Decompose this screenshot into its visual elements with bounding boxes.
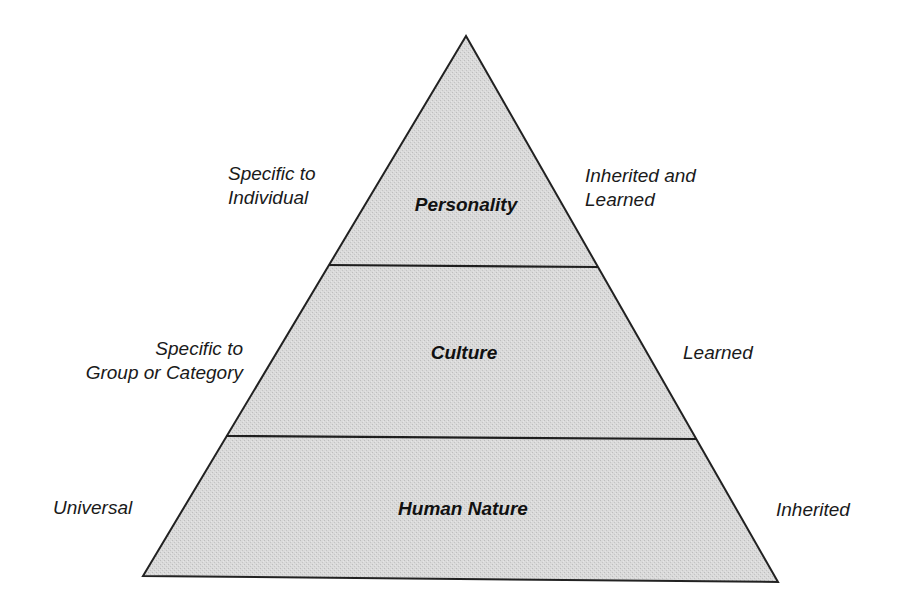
human-nature-right-label: Inherited — [776, 498, 850, 522]
tier-label-culture: Culture — [431, 341, 498, 365]
cropped-glyph-fragment — [50, 608, 74, 614]
tier-label-human-nature: Human Nature — [398, 497, 528, 521]
culture-left-line-2: Group or Category — [30, 361, 243, 385]
tier-label-personality: Personality — [415, 193, 517, 217]
culture-left-label: Specific to Group or Category — [30, 337, 243, 385]
personality-right-line-1: Inherited and — [585, 164, 696, 188]
personality-right-label: Inherited and Learned — [585, 164, 696, 212]
culture-right-label: Learned — [683, 341, 753, 365]
pyramid-diagram: Specific to Individual Personality Inher… — [0, 0, 900, 614]
personality-left-line-2: Individual — [228, 186, 343, 210]
human-nature-right-line-1: Inherited — [776, 498, 850, 522]
culture-left-line-1: Specific to — [30, 337, 243, 361]
personality-left-line-1: Specific to — [228, 162, 343, 186]
pyramid-graphic — [0, 0, 900, 614]
culture-right-line-1: Learned — [683, 341, 753, 365]
personality-right-line-2: Learned — [585, 188, 696, 212]
human-nature-left-label: Universal — [53, 496, 132, 520]
personality-left-label: Specific to Individual — [228, 162, 343, 210]
human-nature-left-line-1: Universal — [53, 496, 132, 520]
